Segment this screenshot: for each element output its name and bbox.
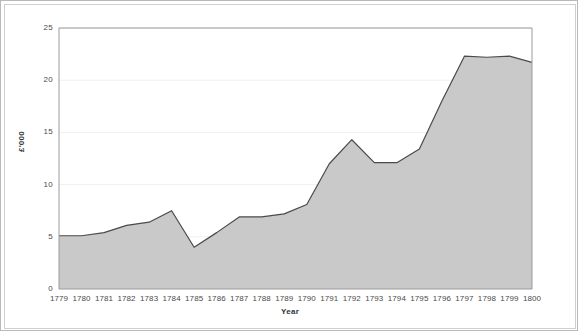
y-axis-tick-label: 10	[31, 180, 53, 189]
area-chart-plot	[5, 5, 577, 330]
y-axis-tick-label: 20	[31, 75, 53, 84]
y-axis-title: £'000	[17, 112, 26, 172]
y-axis-tick-label: 5	[31, 232, 53, 241]
y-axis-tick-label: 15	[31, 127, 53, 136]
x-axis-title: Year	[1, 307, 578, 316]
chart-plot-container: 0510152025 17791780178117821783178417851…	[4, 4, 576, 329]
y-axis-tick-label: 25	[31, 23, 53, 32]
chart-frame: 0510152025 17791780178117821783178417851…	[0, 0, 578, 331]
y-axis-tick-label: 0	[31, 284, 53, 293]
x-axis-tick-label: 1800	[512, 294, 552, 303]
